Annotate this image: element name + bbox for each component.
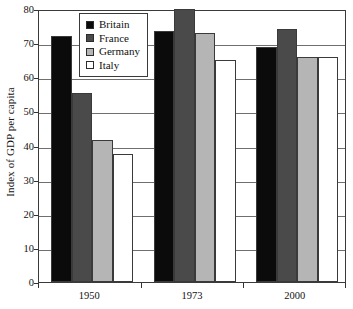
y-axis-tick-label: 50: [24, 107, 35, 118]
bar-italy-1950: [113, 154, 134, 282]
legend-item-germany: Germany: [86, 45, 140, 59]
legend: BritainFranceGermanyItaly: [79, 13, 148, 77]
bar-italy-1973: [215, 60, 236, 282]
y-axis-tick-label: 30: [24, 175, 35, 186]
x-axis-tick-mark: [141, 283, 142, 288]
bar-france-1950: [72, 93, 93, 282]
y-axis-tick-label: 40: [24, 141, 35, 152]
y-axis-tick-labels: 01020304050607080: [14, 0, 34, 309]
bar-germany-1950: [92, 140, 113, 282]
legend-swatch-icon: [86, 48, 94, 56]
legend-swatch-icon: [86, 61, 94, 69]
x-axis-tick-mark: [345, 283, 346, 288]
bar-britain-2000: [256, 47, 277, 282]
bar-italy-2000: [318, 57, 339, 282]
y-axis-tick-label: 10: [24, 244, 35, 255]
x-axis-tick-mark: [243, 283, 244, 288]
bar-britain-1973: [154, 31, 175, 282]
x-axis-label-1950: 1950: [79, 290, 100, 301]
x-axis-label-1973: 1973: [182, 290, 203, 301]
x-axis: 195019732000: [38, 283, 346, 309]
y-axis-tick-label: 70: [24, 39, 35, 50]
y-axis-tick-label: 20: [24, 210, 35, 221]
legend-item-italy: Italy: [86, 59, 140, 73]
legend-item-label: Britain: [99, 19, 130, 30]
bar-france-1973: [174, 9, 195, 282]
legend-swatch-icon: [86, 34, 94, 42]
bar-chart: Index of GDP per capita 0102030405060708…: [0, 0, 353, 309]
legend-item-britain: Britain: [86, 18, 140, 32]
bar-germany-2000: [297, 57, 318, 282]
y-axis-tick-label: 60: [24, 73, 35, 84]
legend-item-label: France: [99, 33, 129, 44]
legend-swatch-icon: [86, 21, 94, 29]
legend-item-label: Germany: [99, 46, 140, 57]
bar-britain-1950: [51, 36, 72, 282]
bar-france-2000: [277, 29, 298, 282]
legend-item-france: France: [86, 32, 140, 46]
bar-germany-1973: [195, 33, 216, 282]
y-axis-tick-label: 80: [24, 5, 35, 16]
legend-item-label: Italy: [99, 60, 119, 71]
x-axis-tick-mark: [38, 283, 39, 288]
x-axis-label-2000: 2000: [284, 290, 305, 301]
